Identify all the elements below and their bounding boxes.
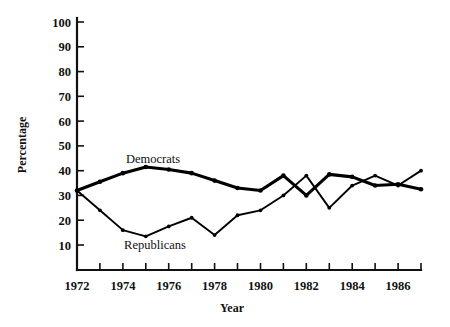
data-point xyxy=(258,188,263,193)
data-point xyxy=(121,228,125,232)
x-tick-label: 1972 xyxy=(65,279,90,293)
y-tick-label: 10 xyxy=(59,239,72,253)
data-point xyxy=(304,174,308,178)
data-point xyxy=(327,172,332,177)
democrats-series-label: Democrats xyxy=(126,152,180,166)
y-axis-title: Percentage xyxy=(15,116,29,173)
data-point xyxy=(396,182,401,187)
series-democrats xyxy=(75,165,424,198)
y-tick-label: 90 xyxy=(59,40,72,54)
data-point xyxy=(327,206,331,210)
data-point xyxy=(350,175,355,180)
y-tick-label: 50 xyxy=(59,139,72,153)
data-point xyxy=(121,171,126,176)
x-axis-tick-labels: 1972 1974 1976 1978 1980 1982 1984 1986 xyxy=(65,279,411,293)
data-point xyxy=(167,225,171,229)
series-republicans xyxy=(75,169,423,238)
republicans-series-label: Republicans xyxy=(124,238,186,252)
data-point xyxy=(75,188,80,193)
data-point xyxy=(282,194,286,198)
data-point xyxy=(259,208,263,212)
y-axis-tick-labels: 100 90 80 70 60 50 40 30 20 10 xyxy=(52,16,71,253)
x-tick-label: 1984 xyxy=(340,279,366,293)
data-point xyxy=(190,216,194,220)
x-tick-label: 1982 xyxy=(294,279,319,293)
data-point xyxy=(373,174,377,178)
x-tick-label: 1980 xyxy=(248,279,273,293)
chart-figure: 100 90 80 70 60 50 40 30 20 10 xyxy=(0,0,450,327)
x-tick-label: 1976 xyxy=(156,279,181,293)
y-tick-label: 60 xyxy=(59,115,72,129)
data-point xyxy=(350,184,354,188)
data-point xyxy=(213,233,217,237)
data-point xyxy=(281,173,286,178)
x-tick-label: 1974 xyxy=(110,279,136,293)
data-point xyxy=(235,186,240,191)
x-axis-title: Year xyxy=(220,301,245,315)
data-point xyxy=(236,213,240,217)
x-tick-label: 1978 xyxy=(202,279,227,293)
data-point xyxy=(98,208,102,212)
data-point xyxy=(212,178,217,183)
y-tick-label: 20 xyxy=(59,214,72,228)
data-point xyxy=(419,169,423,173)
y-tick-label: 70 xyxy=(59,90,72,104)
data-point xyxy=(419,187,424,192)
y-tick-label: 30 xyxy=(59,189,72,203)
data-point xyxy=(304,193,309,198)
data-point xyxy=(166,167,171,172)
x-tick-label: 1986 xyxy=(386,279,411,293)
y-tick-label: 40 xyxy=(59,164,72,178)
y-tick-label: 80 xyxy=(59,65,72,79)
data-point xyxy=(98,180,103,185)
y-tick-label: 100 xyxy=(52,16,71,30)
line-chart: 100 90 80 70 60 50 40 30 20 10 xyxy=(0,0,450,327)
data-point xyxy=(373,183,378,188)
data-point xyxy=(189,171,194,176)
